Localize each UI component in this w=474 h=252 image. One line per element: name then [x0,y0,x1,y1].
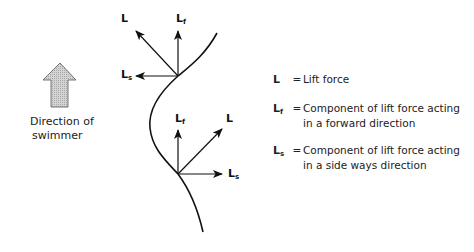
direction-caption-line2: swimmer [30,129,94,143]
upper-side-label: Ls [121,68,132,82]
upper-vectors [136,31,178,76]
legend-item-side: Ls = Component of lift force acting in a… [273,143,473,173]
direction-caption: Direction of swimmer [30,115,94,143]
lower-vectors [178,129,222,174]
lower-forward-label: Lf [175,112,185,126]
upper-lift-label: L [121,12,128,26]
legend-item-forward: Lf = Component of lift force acting in a… [273,101,473,131]
upper-lift-vector [136,31,178,76]
lower-lift-vector [178,129,222,174]
hand-path-curve [150,33,217,232]
direction-caption-line1: Direction of [30,115,94,129]
legend: L = Lift force Lf = Component of lift fo… [273,72,473,181]
legend-item-lift: L = Lift force [273,72,473,91]
direction-arrow-icon [43,63,76,107]
lower-lift-label: L [226,112,233,126]
upper-forward-label: Lf [176,12,186,26]
lower-side-label: Ls [228,167,239,181]
